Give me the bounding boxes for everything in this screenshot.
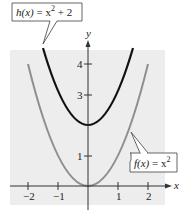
y-tick-label: 4 [77,58,83,70]
svg-text:f(x) = x2: f(x) = x2 [134,155,170,170]
x-tick-label: 1 [116,190,122,202]
x-tick-label: 2 [146,190,152,202]
x-tick-label: −2 [23,190,35,202]
x-axis-label: x [173,179,179,191]
callout-h: h(x) = x2 + 2 [12,3,82,44]
y-tick-label: 3 [77,89,83,101]
chart: −2 −1 1 2 1 3 4 x y h(x) = x2 + 2 f(x) =… [0,0,188,213]
y-tick-label: 1 [77,150,83,162]
x-axis-arrow-icon [165,184,172,189]
x-tick-label: −1 [53,190,65,202]
y-axis-label: y [85,27,91,39]
svg-text:h(x) = x2 + 2: h(x) = x2 + 2 [16,4,72,19]
y-axis-arrow-icon [86,40,91,47]
